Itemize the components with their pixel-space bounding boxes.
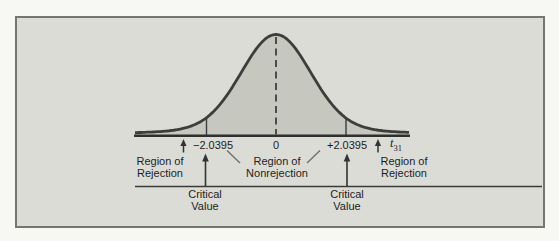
region-label-right-rejection: Region of Rejection [369,156,439,179]
axis-label-t31: t31 [386,138,406,150]
distribution-curve-fill [135,35,409,137]
critical-value-label-right: Critical Value [312,189,382,212]
critical-value-label-left: Critical Value [170,189,240,212]
curve-svg [132,28,412,140]
tick-label-right: +2.0395 [312,140,382,152]
tick-label-left: −2.0395 [178,140,248,152]
tick-label-zero: 0 [261,140,291,152]
region-label-left-rejection: Region of Rejection [125,156,195,179]
region-label-nonrejection: Region of Nonrejection [237,156,317,179]
